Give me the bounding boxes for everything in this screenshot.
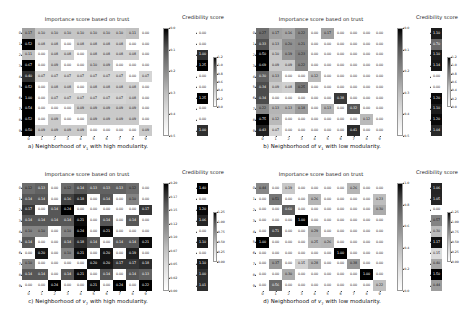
heatmap-cell: 0.24 xyxy=(113,280,126,291)
heatmap-cell: 1.00 xyxy=(295,215,308,226)
heatmap-cell: 0.08 xyxy=(126,82,139,93)
cell-value: 0.17 xyxy=(324,32,331,35)
heatmap-cell: 0.00 xyxy=(126,280,139,291)
heatmap-cell: 0.00 xyxy=(295,205,308,216)
cell-value: 0.00 xyxy=(337,118,344,121)
cell-value: 0.00 xyxy=(142,107,149,110)
cell-value: 1.10 xyxy=(199,241,206,244)
cell-value: 0.00 xyxy=(298,97,305,100)
heatmap-cell: 0.00 xyxy=(334,183,347,194)
heatmap-grid: 0.170.100.100.100.100.100.100.100.110.00… xyxy=(22,28,152,136)
credibility-title: Credibility score xyxy=(409,14,465,20)
cell-value: 0.54 xyxy=(25,107,32,110)
cell-value: 0.12 xyxy=(129,187,136,190)
cell-value: 0.00 xyxy=(259,208,266,211)
heatmap-cell: 0.33 xyxy=(256,39,269,50)
cell-value: 0.08 xyxy=(103,86,110,89)
cell-value: 0.00 xyxy=(337,262,344,265)
heatmap-cell: 0.00 xyxy=(48,237,61,248)
heatmap-cell: 0.38 xyxy=(334,93,347,104)
heatmap-cell: 0.09 xyxy=(48,125,61,136)
heatmap-cell: 0.00 xyxy=(321,215,334,226)
credibility-cell: 0.00 xyxy=(197,71,208,82)
heatmap-cell: 0.18 xyxy=(74,194,87,205)
heatmap-cell: 0.13 xyxy=(321,104,334,115)
cell-value: 0.00 xyxy=(116,208,123,211)
cell-value: 0.17 xyxy=(25,208,32,211)
cell-value: 0.08 xyxy=(51,86,58,89)
cell-value: 0.00 xyxy=(376,252,383,255)
heatmap-cell: 0.10 xyxy=(35,226,48,237)
cell-value: 0.08 xyxy=(51,53,58,56)
colorbar-tick-label: 0.00 xyxy=(217,260,225,264)
cell-value: 0.40 xyxy=(433,262,440,265)
heatmap-cell: 0.12 xyxy=(360,114,373,125)
heatmap-cell: 0.07 xyxy=(74,93,87,104)
cell-value: 0.00 xyxy=(376,273,383,276)
heatmap-cell: 0.00 xyxy=(373,82,386,93)
cell-value: 1.04 xyxy=(433,129,440,132)
cell-value: 1.00 xyxy=(298,219,305,222)
heatmap-cell: 0.51 xyxy=(269,194,282,205)
cell-value: 0.17 xyxy=(25,32,32,35)
cell-value: 1.20 xyxy=(433,118,440,121)
heatmap-cell: 0.00 xyxy=(295,269,308,280)
heatmap-cell: 0.00 xyxy=(139,60,152,71)
cell-value: 0.28 xyxy=(311,262,318,265)
cell-value: 0.00 xyxy=(285,284,292,287)
heatmap-cell: 0.14 xyxy=(61,237,74,248)
heatmap-cell: 0.00 xyxy=(282,194,295,205)
heatmap-cell: 0.00 xyxy=(347,82,360,93)
heatmap-cell: 0.00 xyxy=(373,28,386,39)
cell-value: 0.07 xyxy=(77,75,84,78)
cell-value: 0.00 xyxy=(199,230,206,233)
cell-value: 0.00 xyxy=(337,241,344,244)
cell-value: 0.00 xyxy=(272,252,279,255)
heatmap-cell: 0.00 xyxy=(334,82,347,93)
cell-value: 0.00 xyxy=(324,97,331,100)
cell-value: 0.25 xyxy=(311,241,318,244)
cell-value: 0.00 xyxy=(116,230,123,233)
cell-value: 0.00 xyxy=(90,219,97,222)
heatmap-cell: 0.00 xyxy=(139,50,152,61)
cell-value: 0.00 xyxy=(38,118,45,121)
cell-value: 0.00 xyxy=(363,86,370,89)
heatmap-cell: 0.00 xyxy=(139,82,152,93)
cell-value: 0.00 xyxy=(363,208,370,211)
cell-value: 0.00 xyxy=(350,75,357,78)
credibility-title: Credibility score xyxy=(175,169,231,175)
importance-heatmap: 0.270.170.160.220.000.170.000.000.000.00… xyxy=(256,28,386,136)
credibility-cell: 0.00 xyxy=(431,82,442,93)
heatmap-cell: 0.00 xyxy=(35,237,48,248)
heatmap-cell: 0.23 xyxy=(295,50,308,61)
cell-value: 0.00 xyxy=(25,252,32,255)
cell-value: 0.38 xyxy=(350,262,357,265)
cell-value: 0.00 xyxy=(324,64,331,67)
cell-value: 0.00 xyxy=(311,64,318,67)
heatmap-cell: 0.00 xyxy=(373,125,386,136)
cell-value: 1.14 xyxy=(433,64,440,67)
credibility-cell: 1.00 xyxy=(197,50,208,61)
cell-value: 0.00 xyxy=(363,241,370,244)
cell-value: 0.17 xyxy=(116,262,123,265)
cell-value: 0.00 xyxy=(350,273,357,276)
cell-value: 0.00 xyxy=(298,273,305,276)
credibility-cell: 1.10 xyxy=(431,28,442,39)
cell-value: 0.23 xyxy=(376,198,383,201)
cell-value: 0.00 xyxy=(376,241,383,244)
cell-value: 0.24 xyxy=(116,284,123,287)
heatmap-cell: 0.00 xyxy=(321,50,334,61)
cell-value: 0.08 xyxy=(64,86,71,89)
credibility-cell: 1.10 xyxy=(431,104,442,115)
credibility-grid: 1.100.701.101.140.000.001.201.101.201.04 xyxy=(431,28,442,136)
cell-value: 0.07 xyxy=(272,129,279,132)
heatmap-cell: 0.00 xyxy=(373,114,386,125)
heatmap-cell: 0.14 xyxy=(100,194,113,205)
heatmap-cell: 0.00 xyxy=(126,205,139,216)
cell-value: 0.00 xyxy=(51,262,58,265)
heatmap-cell: 0.11 xyxy=(126,28,139,39)
heatmap-cell: 0.08 xyxy=(48,50,61,61)
cell-value: 0.20 xyxy=(90,262,97,265)
cell-value: 0.07 xyxy=(51,97,58,100)
heatmap-cell: 0.08 xyxy=(87,82,100,93)
